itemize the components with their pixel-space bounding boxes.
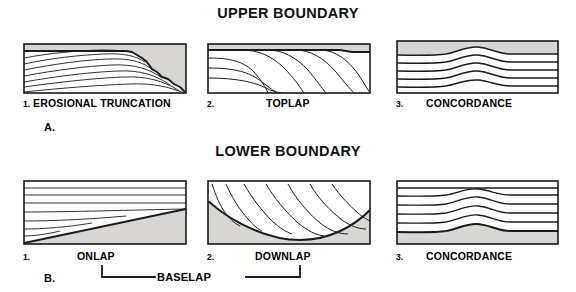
panel-number-a2: 2. bbox=[207, 99, 214, 109]
panel-label-onlap: ONLAP bbox=[77, 250, 115, 262]
panel-concordance-upper-art bbox=[397, 41, 558, 93]
group-label-b: B. bbox=[44, 272, 55, 284]
panel-number-b1: 1. bbox=[23, 252, 30, 262]
panel-label-toplap: TOPLAP bbox=[266, 97, 310, 109]
panel-number-a1: 1. bbox=[23, 99, 30, 109]
panel-label-erosional-truncation: EROSIONAL TRUNCATION bbox=[33, 97, 171, 109]
panel-number-b3: 3. bbox=[396, 252, 403, 262]
panel-toplap-art bbox=[208, 44, 370, 93]
panel-label-downlap: DOWNLAP bbox=[255, 250, 311, 262]
panel-erosional-truncation-art bbox=[24, 44, 186, 93]
panel-onlap-art bbox=[24, 181, 186, 244]
group-label-a: A. bbox=[44, 121, 55, 133]
section-heading-upper-boundary: UPPER BOUNDARY bbox=[0, 5, 576, 21]
seismic-stratigraphy-figure: UPPER BOUNDARY LOWER BOUNDARY bbox=[0, 0, 576, 292]
panel-concordance-lower-art bbox=[397, 181, 558, 244]
section-heading-lower-boundary: LOWER BOUNDARY bbox=[0, 143, 576, 159]
panel-label-concordance-lower: CONCORDANCE bbox=[426, 250, 512, 262]
panel-number-a3: 3. bbox=[396, 99, 403, 109]
panel-number-b2: 2. bbox=[207, 252, 214, 262]
panel-label-concordance-upper: CONCORDANCE bbox=[426, 97, 512, 109]
panel-downlap-art bbox=[208, 181, 370, 244]
baselap-label: BASELAP bbox=[157, 271, 211, 283]
